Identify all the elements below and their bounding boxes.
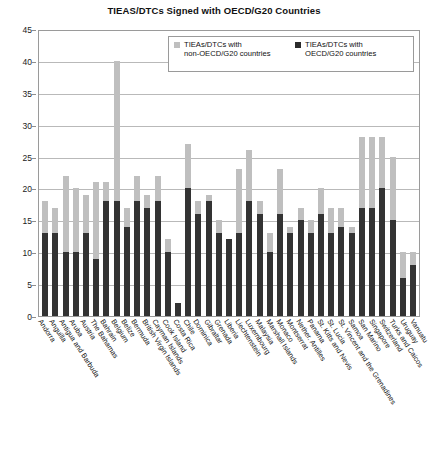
bar-column[interactable] — [101, 31, 111, 316]
y-axis-tick-label: 40 — [23, 57, 32, 67]
bar-segment-oecd — [195, 214, 201, 316]
bar-segment-oecd — [236, 233, 242, 316]
bar-column[interactable] — [224, 31, 234, 316]
legend-item-oecd: TIEAs/DTCs withOECD/G20 countries — [295, 40, 408, 68]
bar-column[interactable] — [285, 31, 295, 316]
y-axis-tick-label: 25 — [23, 153, 32, 163]
bar-segment-oecd — [246, 201, 252, 316]
bar-column[interactable] — [152, 31, 162, 316]
bar-column[interactable] — [408, 31, 418, 316]
bar-segment-non-oecd — [298, 208, 304, 221]
bar-column[interactable] — [71, 31, 81, 316]
bar-stack — [400, 252, 406, 316]
y-axis-tick-mark — [32, 317, 36, 318]
bar-segment-non-oecd — [144, 195, 150, 208]
bar-column[interactable] — [357, 31, 367, 316]
bar-column[interactable] — [142, 31, 152, 316]
bar-column[interactable] — [132, 31, 142, 316]
bar-column[interactable] — [122, 31, 132, 316]
bar-column[interactable] — [367, 31, 377, 316]
bar-segment-oecd — [134, 201, 140, 316]
bar-column[interactable] — [275, 31, 285, 316]
bar-column[interactable] — [163, 31, 173, 316]
bar-segment-non-oecd — [379, 137, 385, 188]
bar-column[interactable] — [377, 31, 387, 316]
y-axis-tick-label: 10 — [23, 248, 32, 258]
bar-stack — [390, 157, 396, 316]
y-axis-tick-label: 35 — [23, 89, 32, 99]
bar-column[interactable] — [112, 31, 122, 316]
bar-stack — [144, 195, 150, 316]
bar-segment-oecd — [42, 233, 48, 316]
y-axis-tick-mark — [32, 285, 36, 286]
legend-label-oecd: TIEAs/DTCs withOECD/G20 countries — [305, 40, 376, 59]
bar-column[interactable] — [81, 31, 91, 316]
y-axis-tick-mark — [32, 253, 36, 254]
bar-stack — [195, 201, 201, 316]
bar-stack — [246, 150, 252, 316]
bar-column[interactable] — [387, 31, 397, 316]
bar-stack — [318, 188, 324, 316]
bar-segment-oecd — [298, 220, 304, 316]
bar-column[interactable] — [60, 31, 70, 316]
chart-title: TIEAS/DTCs Signed with OECD/G20 Countrie… — [0, 5, 428, 16]
bar-stack — [308, 220, 314, 316]
bar-stack — [134, 176, 140, 316]
legend-swatch-icon-non-oecd — [174, 42, 180, 48]
bar-column[interactable] — [255, 31, 265, 316]
bar-stack — [165, 239, 171, 316]
y-axis-tick-mark — [32, 126, 36, 127]
bar-segment-oecd — [349, 233, 355, 316]
bar-column[interactable] — [234, 31, 244, 316]
bar-segment-oecd — [390, 220, 396, 316]
bar-segment-non-oecd — [73, 188, 79, 252]
bar-stack — [124, 208, 130, 316]
y-axis-tick-mark — [32, 30, 36, 31]
bar-segment-oecd — [308, 233, 314, 316]
bar-column[interactable] — [193, 31, 203, 316]
bar-stack — [328, 208, 334, 316]
bar-segment-non-oecd — [155, 176, 161, 202]
bar-stack — [175, 303, 181, 316]
bar-column[interactable] — [40, 31, 50, 316]
bar-column[interactable] — [295, 31, 305, 316]
bar-segment-non-oecd — [63, 176, 69, 253]
bar-column[interactable] — [398, 31, 408, 316]
bar-column[interactable] — [244, 31, 254, 316]
bar-segment-non-oecd — [124, 208, 130, 227]
bar-stack — [298, 208, 304, 316]
y-axis-tick-label: 30 — [23, 121, 32, 131]
bar-segment-oecd — [410, 265, 416, 316]
bar-segment-oecd — [83, 233, 89, 316]
bar-column[interactable] — [50, 31, 60, 316]
bar-segment-non-oecd — [359, 137, 365, 207]
bar-column[interactable] — [214, 31, 224, 316]
bar-segment-non-oecd — [318, 188, 324, 214]
bar-column[interactable] — [173, 31, 183, 316]
bar-column[interactable] — [347, 31, 357, 316]
bar-column[interactable] — [336, 31, 346, 316]
bar-segment-non-oecd — [257, 201, 263, 214]
bar-segment-oecd — [144, 208, 150, 316]
bar-segment-oecd — [379, 188, 385, 316]
bar-segment-oecd — [63, 252, 69, 316]
bar-column[interactable] — [204, 31, 214, 316]
bar-segment-non-oecd — [410, 252, 416, 265]
bar-column[interactable] — [183, 31, 193, 316]
bar-segment-oecd — [287, 233, 293, 316]
bar-column[interactable] — [326, 31, 336, 316]
bar-segment-oecd — [338, 227, 344, 316]
bar-stack — [257, 201, 263, 316]
bar-column[interactable] — [265, 31, 275, 316]
bar-stack — [287, 227, 293, 316]
bar-segment-oecd — [216, 233, 222, 316]
bar-column[interactable] — [306, 31, 316, 316]
bar-column[interactable] — [91, 31, 101, 316]
bar-segment-oecd — [277, 214, 283, 316]
bar-segment-oecd — [185, 188, 191, 316]
bar-segment-non-oecd — [390, 157, 396, 221]
bar-segment-non-oecd — [267, 233, 273, 252]
bar-column[interactable] — [316, 31, 326, 316]
bar-segment-oecd — [206, 201, 212, 316]
bar-segment-non-oecd — [277, 169, 283, 214]
